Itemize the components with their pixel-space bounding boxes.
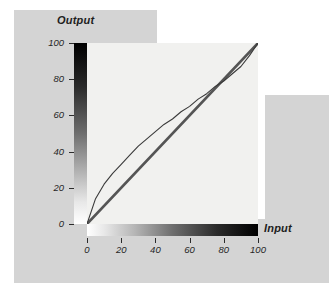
y-axis-tick-mark	[69, 43, 74, 44]
y-axis-tick-label: 80	[38, 73, 64, 84]
x-axis-tick-mark	[155, 238, 156, 243]
x-axis-tick-label: 0	[74, 244, 100, 255]
y-axis-tick-mark	[69, 152, 74, 153]
output-gradient-ramp-icon	[74, 43, 87, 224]
y-axis-tick-label: 20	[38, 182, 64, 193]
x-axis-tick-label: 80	[211, 244, 237, 255]
x-axis-tick-mark	[121, 238, 122, 243]
y-axis-tick-label: 0	[38, 218, 64, 229]
input-gradient-ramp-icon	[87, 224, 258, 236]
x-axis-tick-label: 60	[177, 244, 203, 255]
x-axis-tick-label: 100	[245, 244, 271, 255]
plot-area	[87, 43, 258, 224]
y-axis-tick-mark	[69, 115, 74, 116]
chart-canvas: Output Input 020406080100020406080100	[0, 0, 329, 299]
x-axis-tick-label: 20	[108, 244, 134, 255]
x-axis-tick-mark	[190, 238, 191, 243]
x-axis-tick-label: 40	[142, 244, 168, 255]
plot-curves-svg	[87, 43, 258, 224]
y-axis-title: Output	[57, 14, 94, 26]
y-axis-tick-mark	[69, 188, 74, 189]
y-axis-tick-label: 100	[38, 37, 64, 48]
x-axis-title: Input	[264, 222, 292, 234]
y-axis-tick-label: 60	[38, 109, 64, 120]
y-axis-tick-mark	[69, 79, 74, 80]
x-axis-tick-mark	[258, 238, 259, 243]
y-axis-tick-label: 40	[38, 146, 64, 157]
y-axis-tick-mark	[69, 224, 74, 225]
background-panel-right	[265, 95, 329, 283]
identity-line	[87, 43, 258, 224]
x-axis-tick-mark	[87, 238, 88, 243]
x-axis-tick-mark	[224, 238, 225, 243]
